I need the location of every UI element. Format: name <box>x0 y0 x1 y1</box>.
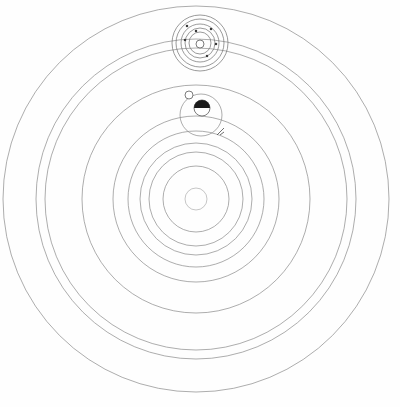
cosmology-diagram <box>0 0 400 407</box>
epicycle-dot-1 <box>186 25 188 27</box>
epicycle-dot-4 <box>195 30 197 32</box>
node-p-tick <box>217 128 224 135</box>
orb-f <box>45 48 347 350</box>
orb-b <box>163 166 229 232</box>
diagram-canvas <box>0 0 400 407</box>
body-a-shaded-half <box>194 100 210 108</box>
node-n-circle <box>185 91 193 99</box>
epicycle-dot-6 <box>206 55 208 57</box>
epicycle-dot-3 <box>215 43 217 45</box>
orb-h <box>128 131 264 267</box>
epicycle-dot-2 <box>210 28 212 30</box>
epicycle-dot-5 <box>184 39 186 41</box>
orb-circle-group <box>3 6 389 392</box>
body-e <box>196 40 204 48</box>
orb-d <box>113 116 279 282</box>
orb-center <box>185 188 207 210</box>
orb-i <box>82 85 310 313</box>
orb-c <box>140 143 252 255</box>
orb-m <box>3 6 389 392</box>
orb-l <box>36 39 356 359</box>
